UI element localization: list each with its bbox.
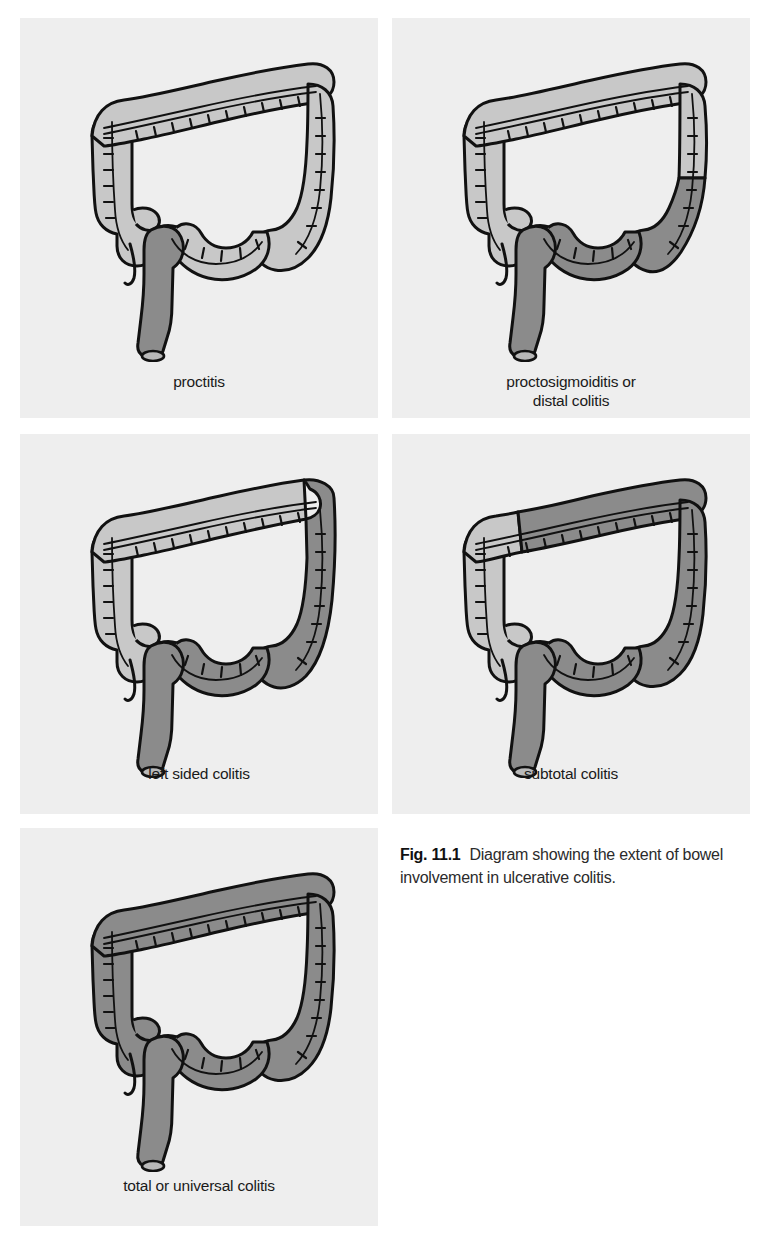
panel-proctosigmoiditis: proctosigmoiditis or distal colitis <box>392 18 750 418</box>
involved-bowel-region <box>510 178 705 361</box>
colon-diagram-subtotal-colitis <box>392 434 750 760</box>
panel-label-subtotal-colitis: subtotal colitis <box>392 764 750 783</box>
panel-total-colitis: total or universal colitis <box>20 828 378 1226</box>
figure-caption: Fig. 11.1Diagram showing the extent of b… <box>400 843 744 889</box>
panel-label-total-colitis: total or universal colitis <box>20 1176 378 1195</box>
colon-diagram-proctitis <box>20 18 378 362</box>
involved-bowel-region <box>92 874 334 1171</box>
panel-proctitis: proctitis <box>20 18 378 418</box>
panel-subtotal-colitis: subtotal colitis <box>392 434 750 814</box>
panel-label-proctosigmoiditis: proctosigmoiditis or distal colitis <box>392 372 750 410</box>
colon-diagram-left-sided-colitis <box>20 434 378 760</box>
panel-label-left-sided-colitis: left sided colitis <box>20 764 378 783</box>
panel-left-sided-colitis: left sided colitis <box>20 434 378 814</box>
colon-diagram-total-colitis <box>20 828 378 1172</box>
involved-bowel-region <box>510 480 706 777</box>
figure-container: proctitis <box>0 0 762 1243</box>
colon-diagram-proctosigmoiditis <box>392 18 750 362</box>
panel-label-proctitis: proctitis <box>20 372 378 391</box>
figure-number: Fig. 11.1 <box>400 846 460 863</box>
